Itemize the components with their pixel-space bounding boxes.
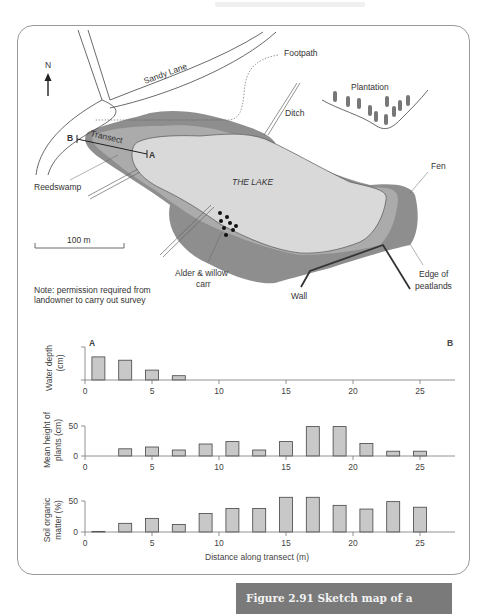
bar [306, 497, 319, 532]
bar [226, 508, 239, 532]
fen-label: Fen [431, 161, 446, 171]
bar [92, 357, 105, 380]
bar [119, 360, 132, 380]
alder-label-line1: Alder & willow [175, 268, 229, 278]
bar [172, 450, 185, 456]
x-tick: 15 [281, 538, 291, 548]
north-arrow-icon [45, 73, 52, 96]
bar [146, 370, 159, 380]
bar [253, 450, 266, 456]
x-tick: 10 [214, 386, 224, 396]
y-tick-50: 50 [69, 496, 79, 506]
bar [199, 513, 212, 532]
soil-organic-chart: Soil organic matter (%) 0500510152025 Di… [42, 496, 455, 562]
x-tick: 15 [281, 386, 291, 396]
scale-label: 100 m [67, 235, 91, 245]
x-tick: 20 [348, 386, 358, 396]
bar [306, 427, 319, 456]
plantation-label: Plantation [351, 82, 389, 92]
figure-caption: Figure 2.91 Sketch map of a hydrosere [236, 583, 452, 614]
x-tick: 25 [415, 538, 425, 548]
edge-peatlands-line1: Edge of [419, 269, 449, 279]
x-tick: 0 [83, 462, 88, 472]
soil-ylabel-2: matter (%) [53, 500, 63, 540]
lake-label: THE LAKE [232, 177, 273, 187]
reedswamp-label: Reedswamp [34, 182, 82, 192]
bar [333, 427, 346, 456]
ditch-label: Ditch [285, 108, 305, 118]
bar [333, 505, 346, 532]
lane-north-road [78, 30, 110, 100]
sandy-lane-label: Sandy Lane [142, 61, 188, 86]
bar [172, 376, 185, 380]
x-tick: 10 [214, 538, 224, 548]
wall-label: Wall [291, 291, 307, 301]
hydrosere-figure: Transect B A N 100 m [0, 0, 485, 616]
x-tick: 25 [415, 386, 425, 396]
x-tick: 5 [150, 462, 155, 472]
bar [119, 523, 132, 532]
north-label: N [45, 60, 51, 70]
plantation-boundary [322, 90, 428, 129]
bar [226, 442, 239, 456]
x-tick: 5 [150, 386, 155, 396]
bar [280, 442, 293, 456]
y-tick-0: 0 [73, 527, 78, 537]
x-axis-label: Distance along transect (m) [205, 552, 309, 562]
footpath [95, 55, 278, 120]
plant-height-chart: Mean height of plants (cm) 0500510152025 [42, 411, 455, 472]
soil-ylabel-1: Soil organic [42, 497, 52, 542]
y-tick-0: 0 [73, 451, 78, 461]
bar [414, 507, 427, 532]
bar [146, 447, 159, 456]
x-tick: 20 [348, 462, 358, 472]
plants-ylabel-2: plants (cm) [53, 419, 63, 461]
bar [253, 508, 266, 532]
alder-label-line2: carr [196, 279, 211, 289]
x-tick: 5 [150, 538, 155, 548]
bar [119, 449, 132, 456]
x-tick: 15 [281, 462, 291, 472]
sketch-map: Transect B A N 100 m [34, 30, 452, 305]
bar [280, 497, 293, 532]
x-tick: 25 [415, 462, 425, 472]
point-a-label: A [149, 150, 155, 160]
bar [172, 525, 185, 532]
note-line1: Note: permission required from [34, 285, 151, 295]
water-ylabel-2: (cm) [55, 354, 65, 371]
footpath-label: Footpath [284, 48, 318, 58]
y-tick-50: 50 [69, 421, 79, 431]
point-b-label: B [67, 133, 73, 143]
water-depth-chart: Water depth (cm) A B 0510152025 [44, 338, 455, 396]
x-tick: 10 [214, 462, 224, 472]
plants-ylabel-1: Mean height of [42, 411, 52, 468]
bar [360, 509, 373, 532]
bar [146, 518, 159, 532]
x-tick: 0 [83, 386, 88, 396]
note-line2: landowner to carry out survey [34, 295, 146, 305]
edge-peatlands-line2: peatlands [415, 281, 452, 291]
bar [199, 444, 212, 456]
bar [387, 451, 400, 456]
bar [360, 443, 373, 456]
water-ylabel-1: Water depth [44, 345, 54, 391]
chart-end-b-label: B [447, 338, 453, 348]
transect-charts: Water depth (cm) A B 0510152025 Mean hei… [42, 338, 455, 562]
chart-end-a-label: A [89, 338, 95, 348]
x-tick: 20 [348, 538, 358, 548]
x-tick: 0 [83, 538, 88, 548]
bar [387, 502, 400, 532]
plantation-trees-icon [333, 91, 410, 125]
bar [414, 451, 427, 456]
